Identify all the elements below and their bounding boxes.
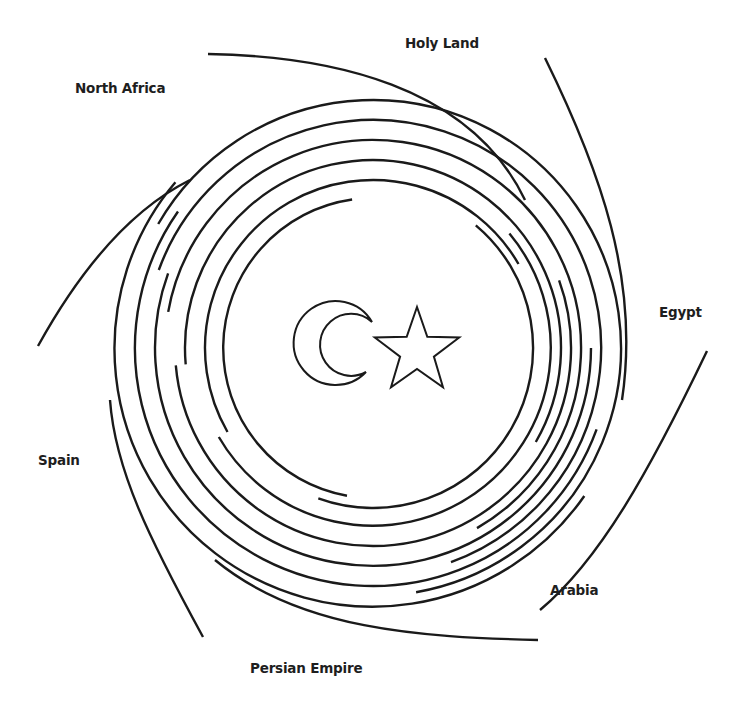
label-spain: Spain [38,452,80,468]
spiral-arc [219,234,551,526]
spiral-arms [38,54,707,640]
spiral-tail [110,400,203,637]
crescent-moon-icon [294,301,372,385]
label-egypt: Egypt [659,304,702,320]
label-persian-empire: Persian Empire [250,660,362,676]
diagram-canvas: North Africa Holy Land Egypt Spain Persi… [0,0,743,711]
spiral-arc [176,280,571,546]
spiral-arc [114,182,584,607]
spiral-tail [38,180,190,346]
spiral-arc [185,160,561,442]
spiral-tail [545,58,626,400]
spiral-tail [208,54,525,200]
spiral-arc [205,180,519,432]
star-icon [375,307,459,387]
label-arabia: Arabia [550,582,598,598]
label-holy-land: Holy Land [405,35,479,51]
label-north-africa: North Africa [75,80,165,96]
spiral-tail [215,560,538,640]
spiral-diagram [0,0,743,711]
spiral-arc [168,140,581,528]
